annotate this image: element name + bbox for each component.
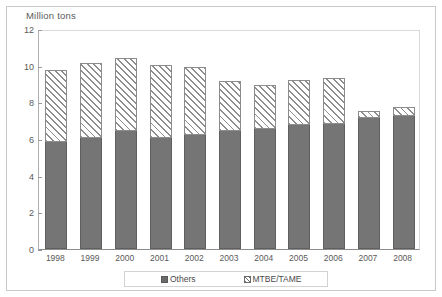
bar-group-2005[interactable] — [288, 29, 310, 249]
y-axis-tickmark-8 — [38, 103, 42, 104]
bar-segment-others-2006 — [323, 123, 345, 250]
bar-segment-mtbe-2006 — [323, 78, 345, 124]
y-axis-tick-0: 0 — [14, 245, 34, 255]
y-axis-tick-labels: 121086420 — [14, 30, 34, 250]
y-axis-tickmark-10 — [38, 67, 42, 68]
bar-segment-mtbe-2001 — [150, 65, 172, 138]
bar-group-2001[interactable] — [150, 29, 172, 249]
bar-segment-mtbe-1999 — [80, 63, 102, 138]
y-axis-tickmark-12 — [38, 30, 42, 31]
bar-segment-mtbe-1998 — [45, 70, 67, 142]
bar-segment-mtbe-2005 — [288, 80, 310, 126]
bar-group-2002[interactable] — [184, 29, 206, 249]
bar-segment-mtbe-2003 — [219, 81, 241, 131]
y-axis-tickmark-2 — [38, 213, 42, 214]
y-axis-tickmark-4 — [38, 177, 42, 178]
bar-group-1998[interactable] — [45, 29, 67, 249]
bar-segment-mtbe-2002 — [184, 67, 206, 135]
plot-area — [38, 30, 420, 250]
bar-segment-others-2002 — [184, 134, 206, 250]
bar-segment-others-1998 — [45, 141, 67, 249]
bar-segment-others-2008 — [393, 115, 415, 249]
bar-segment-mtbe-2007 — [358, 111, 380, 118]
y-axis-tickmark-6 — [38, 140, 42, 141]
x-axis-tick-2008: 2008 — [383, 253, 423, 263]
y-axis-tick-8: 8 — [14, 98, 34, 108]
y-axis-tick-12: 12 — [14, 25, 34, 35]
y-axis-tick-2: 2 — [14, 208, 34, 218]
y-axis-tick-10: 10 — [14, 62, 34, 72]
bar-segment-mtbe-2004 — [254, 85, 276, 129]
bar-segment-others-2007 — [358, 117, 380, 249]
bar-group-2004[interactable] — [254, 29, 276, 249]
y-axis-tickmark-0 — [38, 250, 42, 251]
chart-figure: Million tons 121086420 19981999200020012… — [0, 0, 442, 297]
legend-label-others: Others — [170, 274, 196, 284]
legend-swatch-mtbe-icon — [244, 276, 251, 283]
bar-segment-others-2005 — [288, 124, 310, 249]
y-axis-title: Million tons — [26, 10, 76, 21]
legend-item-mtbe[interactable]: MTBE/TAME — [244, 274, 302, 284]
bar-segment-others-2001 — [150, 137, 172, 249]
x-axis-tick-labels: 1998199920002001200220032004200520062007… — [38, 253, 420, 269]
bar-segment-mtbe-2008 — [393, 107, 415, 116]
legend-swatch-others-icon — [161, 276, 168, 283]
bar-segment-others-1999 — [80, 137, 102, 249]
chart-legend: Others MTBE/TAME — [124, 271, 328, 287]
bar-group-2008[interactable] — [393, 29, 415, 249]
bar-group-2006[interactable] — [323, 29, 345, 249]
bars-layer — [39, 31, 419, 249]
bar-segment-others-2000 — [115, 130, 137, 249]
bar-group-2007[interactable] — [358, 29, 380, 249]
bar-group-2000[interactable] — [115, 29, 137, 249]
y-axis-tick-6: 6 — [14, 135, 34, 145]
y-axis-tick-4: 4 — [14, 172, 34, 182]
legend-label-mtbe: MTBE/TAME — [253, 274, 302, 284]
bar-segment-others-2003 — [219, 130, 241, 249]
bar-segment-others-2004 — [254, 128, 276, 249]
bar-group-2003[interactable] — [219, 29, 241, 249]
bar-group-1999[interactable] — [80, 29, 102, 249]
bar-segment-mtbe-2000 — [115, 58, 137, 131]
legend-item-others[interactable]: Others — [161, 274, 196, 284]
